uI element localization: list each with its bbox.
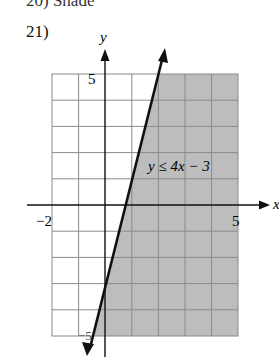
- y-max-tick-label: 5: [88, 71, 96, 87]
- inequality-label: y ≤ 4x − 3: [146, 158, 210, 174]
- y-axis-label: y: [98, 29, 107, 45]
- line-arrow-bottom-icon: [82, 342, 94, 356]
- x-max-tick-label: 5: [232, 213, 240, 229]
- y-axis-arrow-icon: [101, 49, 110, 61]
- x-axis-label: x: [272, 196, 279, 212]
- y-min-tick-label: −5: [78, 328, 92, 343]
- x-axis-arrow-icon: [259, 201, 270, 210]
- inequality-graph: y x 5 −2 5 −5 y ≤ 4x − 3: [0, 0, 279, 357]
- line-arrow-top-icon: [158, 48, 168, 63]
- x-min-tick-label: −2: [36, 213, 52, 229]
